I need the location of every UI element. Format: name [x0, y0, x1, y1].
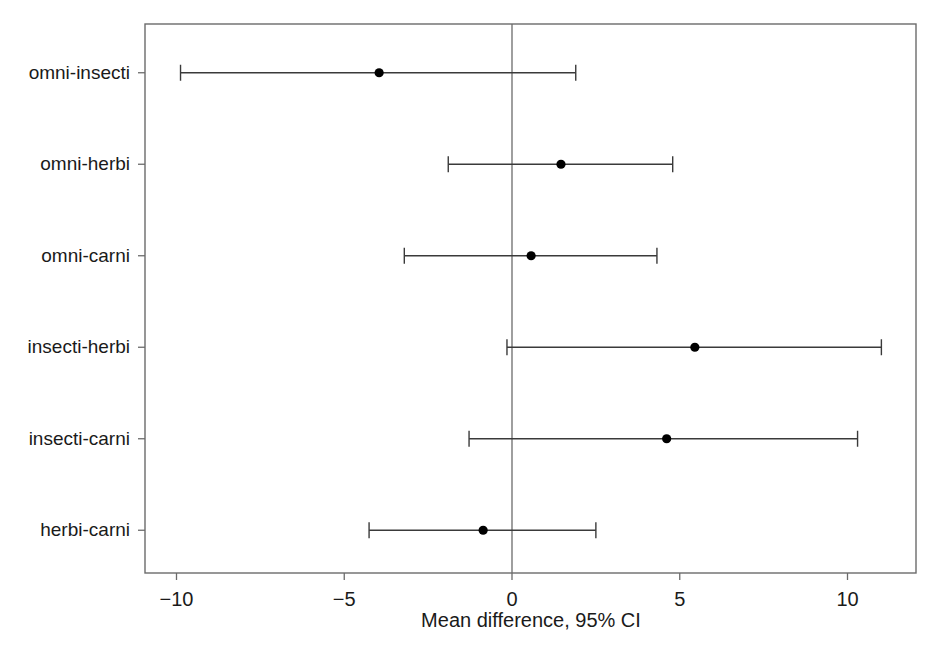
mean-difference-marker — [662, 434, 671, 443]
mean-difference-marker — [527, 251, 536, 260]
x-tick-label: 0 — [506, 588, 517, 610]
mean-difference-marker — [690, 343, 699, 352]
ci-row — [507, 339, 881, 355]
ci-row — [448, 156, 672, 172]
ci-row — [181, 65, 576, 81]
y-axis-category-labels: omni-insectiomni-herbiomni-carniinsecti-… — [28, 62, 130, 541]
y-axis-category-label: insecti-herbi — [28, 336, 130, 357]
mean-difference-marker — [556, 160, 565, 169]
y-axis-category-label: omni-insecti — [29, 62, 130, 83]
y-axis-category-label: herbi-carni — [40, 519, 130, 540]
forest-plot-figure: −10−50510 omni-insectiomni-herbiomni-car… — [0, 0, 938, 650]
confidence-interval-rows — [181, 65, 882, 539]
ci-row — [404, 248, 657, 264]
x-tick-label: −5 — [333, 588, 356, 610]
ci-row — [369, 522, 596, 538]
y-axis-category-label: omni-carni — [41, 245, 130, 266]
forest-plot-canvas: −10−50510 omni-insectiomni-herbiomni-car… — [0, 0, 938, 650]
ci-row — [469, 431, 858, 447]
x-axis-ticks — [177, 573, 848, 580]
y-axis-category-label: insecti-carni — [29, 428, 130, 449]
plot-frame — [145, 24, 916, 573]
mean-difference-marker — [375, 68, 384, 77]
x-tick-label: −10 — [160, 588, 194, 610]
x-tick-label: 10 — [836, 588, 858, 610]
x-axis-tick-labels: −10−50510 — [160, 588, 859, 610]
y-axis-ticks — [138, 73, 145, 531]
x-tick-label: 5 — [674, 588, 685, 610]
y-axis-category-label: omni-herbi — [40, 153, 130, 174]
mean-difference-marker — [479, 526, 488, 535]
x-axis-title: Mean difference, 95% CI — [421, 609, 641, 631]
